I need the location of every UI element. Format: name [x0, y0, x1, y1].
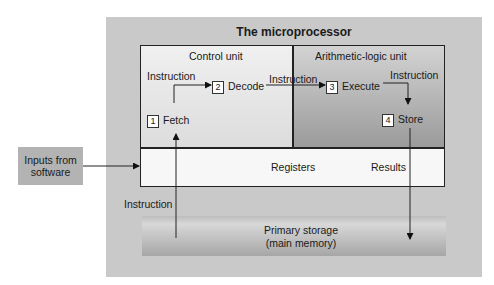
arrows [0, 0, 494, 285]
